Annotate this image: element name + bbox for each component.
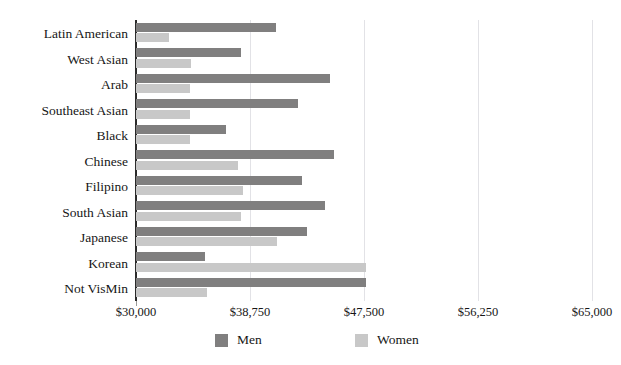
legend-swatch-women-icon: [355, 334, 368, 347]
page-title: [0, 0, 621, 1]
bar-men: [136, 227, 307, 236]
bar-men: [136, 252, 205, 261]
legend-item-women: Women: [355, 332, 419, 348]
value-axis-labels: $30,000$38,750$47,500$56,250$65,000: [0, 305, 621, 323]
value-axis-tick-label: $38,750: [230, 305, 271, 320]
bar-women: [136, 237, 277, 246]
category-label: Chinese: [0, 155, 128, 168]
bar-men: [136, 74, 330, 83]
category-label: Black: [0, 129, 128, 142]
category-label: South Asian: [0, 206, 128, 219]
bar-men: [136, 278, 366, 287]
category-label: Japanese: [0, 231, 128, 244]
bar-women: [136, 59, 191, 68]
gridline: [478, 20, 479, 301]
bar-women: [136, 263, 366, 272]
category-label: West Asian: [0, 53, 128, 66]
axis-tick-mark: [136, 301, 137, 306]
bar-men: [136, 99, 298, 108]
category-label: Filipino: [0, 180, 128, 193]
bar-women: [136, 110, 190, 119]
bar-men: [136, 23, 276, 32]
bar-men: [136, 176, 302, 185]
plot-area: [136, 20, 621, 301]
legend-item-men: Men: [215, 332, 262, 348]
bar-women: [136, 135, 190, 144]
bar-men: [136, 150, 334, 159]
legend-label-women: Women: [377, 332, 419, 348]
gridline: [364, 20, 365, 301]
bar-women: [136, 161, 238, 170]
bar-men: [136, 48, 241, 57]
category-axis-labels: Latin AmericanWest AsianArabSoutheast As…: [0, 20, 128, 301]
value-axis-tick-label: $56,250: [458, 305, 499, 320]
bar-women: [136, 212, 241, 221]
gridline: [250, 20, 251, 301]
category-label: Not VisMin: [0, 282, 128, 295]
category-label: Korean: [0, 257, 128, 270]
category-label: Arab: [0, 78, 128, 91]
chart-legend: Men Women: [0, 332, 621, 352]
legend-swatch-men-icon: [215, 334, 228, 347]
bar-women: [136, 84, 190, 93]
value-axis-tick-label: $30,000: [116, 305, 157, 320]
bar-women: [136, 288, 207, 297]
bar-men: [136, 125, 226, 134]
bar-women: [136, 33, 169, 42]
value-axis-tick-label: $47,500: [344, 305, 385, 320]
value-axis-tick-label: $65,000: [572, 305, 613, 320]
category-label: Latin American: [0, 27, 128, 40]
gridline: [592, 20, 593, 301]
legend-label-men: Men: [237, 332, 262, 348]
bar-women: [136, 186, 243, 195]
bar-men: [136, 201, 325, 210]
category-label: Southeast Asian: [0, 104, 128, 117]
